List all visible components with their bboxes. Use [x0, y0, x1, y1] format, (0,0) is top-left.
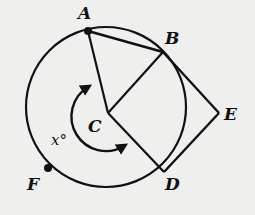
segment-bc	[108, 52, 163, 113]
point-a-dot	[84, 27, 92, 35]
point-f-dot	[44, 164, 52, 172]
label-a: A	[76, 3, 91, 23]
segment-cd	[108, 113, 164, 172]
segment-be	[163, 52, 219, 113]
label-d: D	[164, 174, 180, 194]
label-e: E	[223, 104, 238, 124]
segment-ac	[88, 31, 108, 113]
label-c: C	[88, 116, 102, 136]
label-b: B	[164, 28, 179, 48]
geometry-diagram: A B C D E F x°	[0, 0, 255, 215]
angle-label-x: x°	[51, 131, 67, 149]
segment-de	[164, 113, 219, 172]
label-f: F	[26, 174, 41, 194]
